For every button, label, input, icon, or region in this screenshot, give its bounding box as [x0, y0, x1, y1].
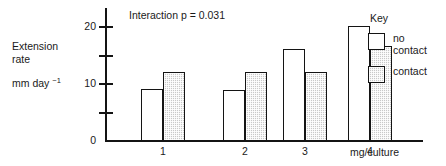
bar-contact-3 [305, 72, 327, 141]
legend-label-no-contact: no contact [393, 32, 427, 56]
legend-title: Key [370, 12, 444, 24]
bar-chart-figure: Extension rate mm day −1 20 10 0 1 2 3 4 [0, 0, 446, 166]
bar-contact-1 [163, 72, 185, 141]
legend-label-contact: contact [393, 65, 427, 77]
legend-item-contact: contact [368, 65, 444, 83]
x-axis-title: mg/culture [350, 146, 399, 158]
x-tick-label-2: 2 [230, 145, 260, 157]
bar-contact-2 [245, 72, 267, 141]
x-tick-label-3: 3 [290, 145, 320, 157]
legend-swatch-contact-icon [368, 66, 385, 83]
bar-nocontact-1 [141, 89, 163, 141]
interaction-p-annotation: Interaction p = 0.031 [129, 9, 225, 21]
legend-swatch-no-contact-icon [368, 33, 385, 50]
legend: Key no contact contact [368, 12, 444, 92]
x-tick-label-1: 1 [148, 145, 178, 157]
bar-nocontact-4 [348, 26, 370, 141]
bar-nocontact-3 [283, 49, 305, 141]
bar-nocontact-2 [223, 90, 245, 141]
legend-item-no-contact: no contact [368, 32, 444, 56]
